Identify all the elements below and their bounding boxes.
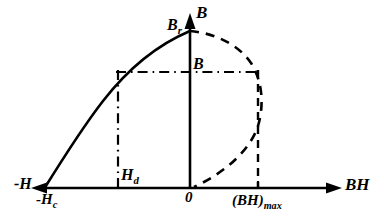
bh-axis-label: BH: [345, 176, 370, 193]
bh-max-label: (BH)max: [232, 193, 282, 211]
coercivity-subscript: c: [53, 199, 58, 210]
coercivity-base: -H: [36, 191, 53, 207]
demagnetization-curve-figure: B Br B -H -Hc Hd 0 (BH)max BH: [0, 0, 384, 221]
remanence-br-subscript: r: [178, 24, 182, 36]
bh-max-base: (BH): [232, 192, 264, 208]
b-axis-label: B: [196, 4, 207, 21]
origin-label: 0: [185, 190, 193, 205]
demagnetizing-field-subscript: d: [133, 174, 138, 186]
demagnetizing-field-label: Hd: [121, 167, 139, 186]
figure-canvas: [0, 0, 384, 221]
negative-h-axis-label: -H: [14, 176, 32, 192]
remanence-br-label: Br: [167, 17, 182, 36]
bh-max-subscript: max: [264, 200, 282, 211]
up-arrow-head-icon: [185, 13, 196, 29]
coercivity-label: -Hc: [36, 192, 57, 210]
right-arrow-head-icon: [326, 183, 342, 194]
demagnetizing-field-base: H: [121, 166, 133, 183]
remanence-br-base: B: [167, 16, 178, 33]
operating-point-b-label: B: [193, 56, 204, 72]
